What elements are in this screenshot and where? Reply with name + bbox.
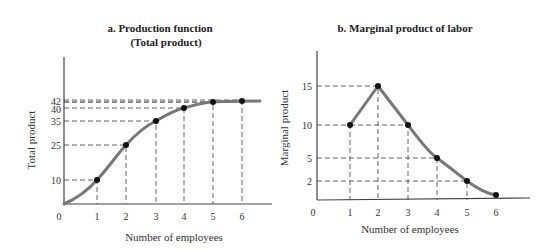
chart-marginal-product: b. Marginal product of labor 15 10 xyxy=(278,22,530,235)
marginal-product-curve xyxy=(350,86,496,195)
data-points xyxy=(94,98,245,183)
svg-text:3: 3 xyxy=(154,211,159,222)
svg-text:10: 10 xyxy=(51,175,61,186)
svg-text:2: 2 xyxy=(376,207,381,218)
svg-text:1: 1 xyxy=(95,211,100,222)
x-tick-labels: 0 1 2 3 4 5 6 xyxy=(57,211,245,222)
y-tick-labels: 10 25 35 40 42 xyxy=(51,96,61,186)
svg-text:15: 15 xyxy=(302,81,312,92)
svg-text:10: 10 xyxy=(302,120,312,131)
svg-text:1: 1 xyxy=(348,207,353,218)
svg-text:3: 3 xyxy=(406,207,411,218)
svg-text:0: 0 xyxy=(311,207,316,218)
svg-text:2: 2 xyxy=(124,211,129,222)
svg-text:4: 4 xyxy=(435,207,440,218)
x-axis xyxy=(317,198,530,200)
x-axis-label: Number of employees xyxy=(361,223,459,235)
svg-text:5: 5 xyxy=(307,153,312,164)
chart-title: a. Production function xyxy=(107,22,212,34)
svg-text:4: 4 xyxy=(182,211,187,222)
figure: a. Production function (Total product) xyxy=(0,0,552,251)
chart-production-function: a. Production function (Total product) xyxy=(25,22,272,243)
total-product-curve xyxy=(64,101,260,204)
svg-text:6: 6 xyxy=(240,211,245,222)
x-axis-label: Number of employees xyxy=(125,231,223,243)
svg-text:6: 6 xyxy=(494,207,499,218)
svg-text:5: 5 xyxy=(211,211,216,222)
svg-text:2: 2 xyxy=(307,176,312,187)
y-axis-label: Total product xyxy=(25,111,37,170)
svg-text:5: 5 xyxy=(465,207,470,218)
svg-text:25: 25 xyxy=(51,140,61,151)
svg-text:35: 35 xyxy=(51,116,61,127)
chart-title: b. Marginal product of labor xyxy=(337,22,472,34)
svg-text:42: 42 xyxy=(51,96,61,107)
y-axis-label: Marginal product xyxy=(278,90,290,166)
svg-text:0: 0 xyxy=(57,211,62,222)
x-tick-labels: 0 1 2 3 4 5 6 xyxy=(311,207,499,218)
chart-subtitle: (Total product) xyxy=(130,36,202,49)
y-tick-labels: 15 10 5 2 xyxy=(302,81,312,187)
